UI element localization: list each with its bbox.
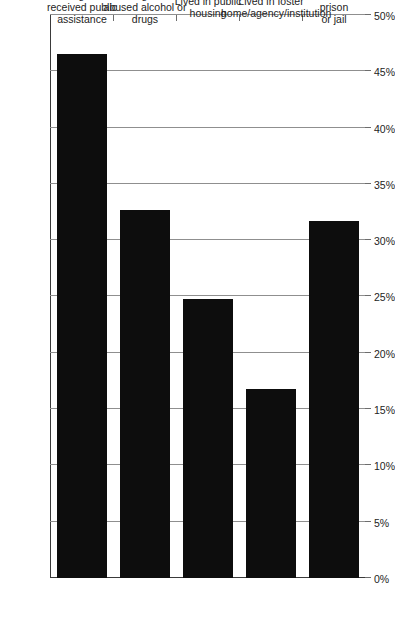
value-tick-label: 10% [374,460,395,472]
value-tick-label: 45% [374,66,395,78]
value-tick [365,464,371,465]
value-tick [365,183,371,184]
value-tick-label: 40% [374,123,395,135]
value-tick [365,127,371,128]
value-tick-label: 30% [374,235,395,247]
value-tick [365,521,371,522]
value-tick-label: 25% [374,292,395,304]
bar [57,54,107,578]
value-tick-label: 5% [374,517,389,529]
value-tick [365,577,371,578]
bar [309,221,359,578]
bar [183,299,233,578]
value-tick-label: 0% [374,573,389,585]
value-tick-label: 15% [374,404,395,416]
value-tick [365,352,371,353]
bar [120,210,170,578]
plot-frame-top [50,15,51,578]
value-tick [365,408,371,409]
value-tick [365,296,371,297]
value-tick [365,239,371,240]
category-label: Parents ever in prison or jail [284,0,384,25]
value-tick [365,70,371,71]
value-tick-label: 20% [374,348,395,360]
value-tick-label: 35% [374,179,395,191]
bar [246,389,296,578]
